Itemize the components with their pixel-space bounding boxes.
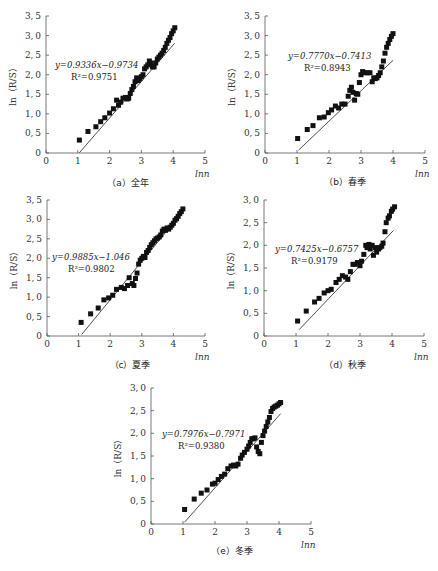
y-axis-label: ln（R/S） — [113, 435, 123, 478]
data-point — [114, 287, 119, 292]
data-point — [346, 94, 351, 99]
y-axis-label: ln（R/S） — [9, 247, 19, 290]
data-point — [359, 259, 364, 264]
x-tick-label: 2 — [326, 156, 332, 166]
data-point — [361, 252, 366, 257]
x-tick-label: 1 — [294, 156, 300, 166]
x-tick-label: 5 — [422, 156, 428, 166]
y-tick-label: 2, 5 — [244, 50, 260, 60]
data-point — [322, 114, 327, 119]
x-tick-label: 0 — [148, 527, 154, 537]
data-point — [253, 435, 258, 440]
y-tick-label: 1, 0 — [244, 109, 260, 119]
data-point — [261, 433, 266, 438]
data-point — [348, 269, 353, 274]
subplot-caption: （c）夏季 — [110, 359, 151, 370]
y-tick-label: 0, 5 — [130, 496, 146, 506]
y-tick-label: 3, 5 — [244, 11, 260, 21]
data-point — [295, 136, 300, 141]
y-tick-label: 1, 0 — [26, 292, 42, 302]
data-point — [392, 204, 397, 209]
data-point — [93, 124, 98, 129]
data-point — [257, 451, 262, 456]
data-point — [312, 300, 317, 305]
data-point — [317, 115, 322, 120]
data-point — [265, 420, 270, 425]
data-point — [111, 106, 116, 111]
data-point — [317, 296, 322, 301]
data-point — [140, 72, 145, 77]
data-point — [107, 111, 112, 116]
data-point — [357, 80, 362, 85]
y-tick-label: 0 — [35, 148, 41, 158]
subplot-caption: （d）秋季 — [324, 359, 366, 370]
data-point — [304, 309, 309, 314]
x-axis-label: lnn — [195, 169, 210, 179]
y-tick-label: 1, 5 — [25, 89, 41, 99]
data-point — [182, 507, 187, 512]
x-axis-label: lnn — [301, 540, 316, 550]
data-point — [199, 491, 204, 496]
x-tick-label: 0 — [44, 339, 50, 349]
data-point — [125, 283, 130, 288]
r-squared-label: R²=0.9751 — [71, 72, 118, 82]
y-tick-label: 2, 5 — [25, 50, 41, 60]
y-tick-label: 1, 5 — [243, 263, 259, 273]
r-squared-label: R²=0.9179 — [291, 256, 338, 266]
x-tick-label: 4 — [276, 527, 282, 537]
y-tick-label: 1, 5 — [244, 89, 260, 99]
x-tick-label: 5 — [421, 339, 427, 349]
x-tick-label: 2 — [107, 339, 113, 349]
subplot-caption: （a）全年 — [107, 177, 149, 188]
data-point — [254, 444, 259, 449]
y-tick-label: 3, 0 — [26, 214, 42, 224]
y-tick-label: 2, 5 — [243, 218, 259, 228]
data-point — [96, 306, 101, 311]
x-tick-label: 3 — [244, 527, 250, 537]
y-tick-label: 0, 5 — [243, 308, 259, 318]
data-point — [367, 70, 372, 75]
regression-equation: y=0.7770x−0.7413 — [287, 51, 371, 61]
data-point — [383, 51, 388, 56]
x-tick-label: 2 — [325, 339, 331, 349]
y-tick-label: 1, 5 — [130, 451, 146, 461]
data-point — [131, 84, 136, 89]
y-tick-label: 3, 0 — [130, 383, 146, 393]
data-point — [267, 415, 272, 420]
subplot-caption: （e）冬季 — [211, 545, 253, 556]
x-axis-label: lnn — [415, 169, 430, 179]
data-point — [379, 64, 384, 69]
x-tick-label: 5 — [202, 339, 208, 349]
data-point — [381, 59, 386, 64]
regression-equation: y=0.9885x−1.046 — [51, 252, 131, 262]
y-tick-label: 3, 0 — [244, 31, 260, 41]
y-tick-label: 0 — [253, 331, 259, 341]
regression-equation: y=0.9336x−0.9734 — [54, 60, 138, 70]
data-point — [358, 263, 363, 268]
data-point — [172, 25, 177, 30]
x-tick-label: 4 — [389, 339, 395, 349]
y-tick-label: 2, 5 — [130, 406, 146, 416]
x-tick-label: 3 — [357, 339, 363, 349]
data-point — [381, 241, 386, 246]
y-tick-label: 2, 0 — [130, 428, 146, 438]
r-squared-label: R²=0.9802 — [68, 264, 115, 274]
y-tick-label: 2, 0 — [243, 240, 259, 250]
data-point — [264, 424, 269, 429]
y-tick-label: 1, 5 — [26, 273, 42, 283]
data-point — [378, 70, 383, 75]
data-point — [382, 229, 387, 234]
data-point — [131, 283, 136, 288]
x-axis-label: lnn — [414, 352, 429, 362]
y-axis-label: ln（R/S） — [8, 63, 18, 106]
y-tick-label: 0, 5 — [244, 128, 260, 138]
y-axis-label: ln（R/S） — [227, 63, 237, 106]
regression-equation: y=0.7976x−0.7971 — [161, 429, 245, 439]
data-point — [142, 255, 147, 260]
x-tick-label: 5 — [202, 156, 208, 166]
x-tick-label: 0 — [262, 156, 268, 166]
data-point — [384, 220, 389, 225]
data-point — [295, 319, 300, 324]
data-point — [329, 287, 334, 292]
x-tick-label: 1 — [293, 339, 299, 349]
